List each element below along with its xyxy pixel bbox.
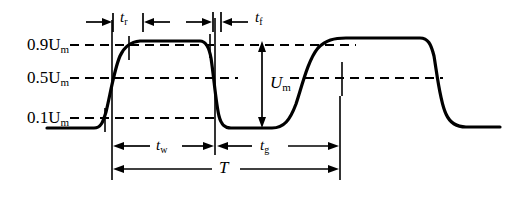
dimension-gap-time	[217, 142, 339, 150]
dimension-rise-time	[86, 13, 170, 32]
level-0.5-subscript: m	[61, 76, 70, 88]
tf-right-arrowhead	[222, 18, 232, 26]
period-label: T	[219, 159, 228, 176]
level-label-0.1Um: 0.1Um	[27, 109, 69, 126]
level-0.9-subscript: m	[61, 43, 70, 55]
tw-arrowhead-right	[203, 142, 214, 150]
level-0.1-value: 0.1U	[27, 108, 61, 127]
fall-time-label: tf	[255, 10, 263, 25]
tr-right-arrowhead	[144, 18, 154, 26]
level-0.9-value: 0.9U	[27, 35, 61, 54]
dimension-amplitude	[258, 41, 266, 128]
um-arrowhead-bottom	[258, 117, 266, 128]
amplitude-subscript: m	[282, 81, 291, 93]
tf-left-arrowhead	[202, 18, 212, 26]
amplitude-label: Um	[270, 74, 291, 91]
dimension-fall-time	[186, 12, 248, 32]
period-symbol: T	[219, 158, 228, 177]
pulse-waveform-figure: 0.9Um 0.5Um 0.1Um tr tf Um tw tg T	[0, 0, 511, 209]
tw-arrowhead-left	[113, 142, 124, 150]
period-arrowhead-left	[113, 165, 124, 173]
um-arrowhead-top	[258, 41, 266, 52]
pulse-width-subscript: w	[160, 144, 167, 155]
level-label-0.5Um: 0.5Um	[27, 69, 69, 86]
rise-time-subscript: r	[124, 16, 127, 27]
rise-time-label: tr	[120, 10, 128, 25]
level-0.1-subscript: m	[61, 116, 70, 128]
tg-arrowhead-left	[217, 142, 228, 150]
pulse-width-label: tw	[156, 138, 167, 153]
tg-arrowhead-right	[328, 142, 339, 150]
threshold-dashed-lines	[70, 45, 443, 118]
level-label-0.9Um: 0.9Um	[27, 36, 69, 53]
fall-time-subscript: f	[259, 16, 262, 27]
level-0.5-value: 0.5U	[27, 68, 61, 87]
period-arrowhead-right	[328, 165, 339, 173]
tr-left-arrowhead	[102, 18, 112, 26]
amplitude-symbol: U	[270, 73, 282, 92]
gap-time-subscript: g	[264, 144, 269, 155]
waveform-svg	[0, 0, 511, 209]
gap-time-label: tg	[260, 138, 269, 153]
